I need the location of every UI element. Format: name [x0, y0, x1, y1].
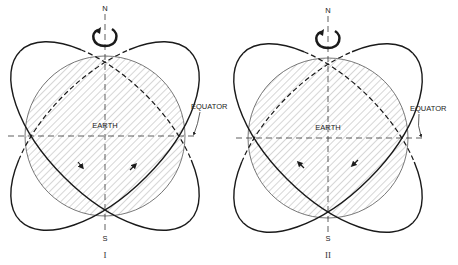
earth-label: EARTH: [315, 123, 340, 132]
north-label: N: [102, 4, 107, 13]
south-label: S: [102, 234, 107, 243]
panel-ii: N S EARTH EQUATOR II: [202, 6, 454, 264]
north-label: N: [325, 6, 330, 15]
equator-label: EQUATOR: [191, 102, 228, 111]
equator-leader-line: [194, 112, 200, 134]
panel-label: I: [104, 250, 107, 260]
panel-i: N S EARTH EQUATOR I: [0, 4, 231, 262]
rotation-arrowhead-icon: [95, 27, 101, 34]
equator-label: EQUATOR: [410, 104, 447, 113]
equator-leader-line: [418, 114, 421, 136]
orbit-diagram: N S EARTH EQUATOR I N S EARTH E: [0, 0, 458, 265]
rotation-arrowhead-icon: [318, 29, 324, 36]
earth-label: EARTH: [92, 121, 117, 130]
south-label: S: [325, 234, 330, 243]
panel-label: II: [325, 250, 331, 260]
